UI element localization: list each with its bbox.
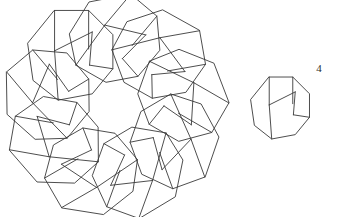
tiling-diagram-canvas: 4	[0, 0, 339, 217]
tile-crease-ring-1-5	[152, 75, 153, 99]
figure-root: 4	[0, 0, 339, 217]
tile-number-label: 4	[316, 62, 322, 74]
canvas-background	[0, 0, 339, 217]
